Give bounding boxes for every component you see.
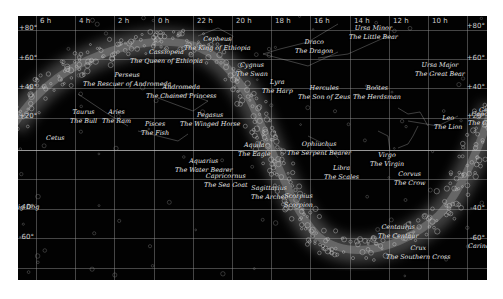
constellation-label[interactable]: HerculesThe Son of Zeus <box>298 84 350 101</box>
constellation-label[interactable]: AquilaThe Eagle <box>238 141 271 158</box>
constellation-name: Draco <box>295 38 333 47</box>
constellation-subtitle: The Virgin <box>370 160 404 169</box>
constellation-label[interactable]: OphiuchusThe Serpent Bearer <box>287 140 351 157</box>
constellation-name: Capricornus <box>204 172 248 181</box>
dec-label-right: -60° <box>470 234 485 242</box>
constellation-label[interactable]: CorvusThe Crow <box>394 170 425 187</box>
constellation-subtitle: The Swan <box>236 70 268 79</box>
constellation-name: Sagittarius <box>251 184 287 193</box>
constellation-subtitle: The Sea Goat <box>204 181 248 190</box>
constellation-subtitle: The Bull <box>70 117 97 126</box>
constellation-name: Ursa Minor <box>349 24 398 33</box>
constellation-name: Taurus <box>70 108 97 117</box>
dec-label-right: -40° <box>470 204 485 212</box>
constellation-label[interactable]: PiscesThe Fish <box>141 120 169 137</box>
constellation-subtitle: The Ram <box>102 117 131 126</box>
dec-label-left: +60° <box>19 54 37 62</box>
constellation-name: Centaurus <box>378 223 419 232</box>
dec-label-right: +80° <box>467 22 485 30</box>
constellation-subtitle: The Fish <box>141 129 169 138</box>
constellation-label[interactable]: BoötesThe Herdsman <box>353 84 401 101</box>
constellation-label[interactable]: CapricornusThe Sea Goat <box>204 172 248 189</box>
constellation-label[interactable]: VirgoThe Virgin <box>370 151 404 168</box>
constellation-subtitle: The Scales <box>324 173 359 182</box>
constellation-name: Andromeda <box>146 83 217 92</box>
hour-label: 6 h <box>40 17 51 25</box>
constellation-name: Boötes <box>353 84 401 93</box>
constellation-label[interactable]: ScorpiusScorpion <box>284 192 313 209</box>
constellation-label[interactable]: LibraThe Scales <box>324 164 359 181</box>
constellation-label[interactable]: AriesThe Ram <box>102 108 131 125</box>
constellation-subtitle: Scorpion <box>284 201 313 210</box>
constellation-subtitle: The Southern Cross <box>386 253 451 262</box>
hour-label: 2 h <box>118 17 129 25</box>
hour-label: 18 h <box>275 17 291 25</box>
constellation-subtitle: The Herdsman <box>353 93 401 102</box>
constellation-subtitle: The Lion <box>434 123 462 132</box>
constellation-name: Virgo <box>370 151 404 160</box>
hour-label: 20 h <box>236 17 252 25</box>
constellation-label[interactable]: LyraThe Harp <box>262 78 293 95</box>
constellation-label[interactable]: Ursa MinorThe Little Bear <box>349 24 398 41</box>
constellation-name: Ursa Major <box>415 61 465 70</box>
constellation-subtitle: ig Dog <box>18 203 39 212</box>
constellation-name: Cassiopeia <box>130 48 203 57</box>
constellation-label[interactable]: Cetus <box>46 134 65 143</box>
constellation-subtitle: The Eagle <box>238 150 271 159</box>
constellation-label[interactable]: PegasusThe Winged Horse <box>180 111 240 128</box>
constellation-label[interactable]: ig Dog <box>18 203 39 212</box>
constellation-name: Pisces <box>141 120 169 129</box>
constellation-label[interactable]: SagittariusThe Archer <box>251 184 287 201</box>
constellation-subtitle: The Crab <box>468 119 487 128</box>
constellation-label[interactable]: TaurusThe Bull <box>70 108 97 125</box>
constellation-name: Crux <box>386 244 451 253</box>
constellation-name: Ophiuchus <box>287 140 351 149</box>
constellation-label[interactable]: CygnusThe Swan <box>236 61 268 78</box>
constellation-subtitle: The Crow <box>394 179 425 188</box>
constellation-subtitle: The Son of Zeus <box>298 93 350 102</box>
hour-label: 22 h <box>197 17 213 25</box>
constellation-subtitle: The Dragon <box>295 47 333 56</box>
constellation-label[interactable]: LeoThe Lion <box>434 114 462 131</box>
hour-label: 10 h <box>432 17 448 25</box>
constellation-label[interactable]: AndromedaThe Chained Princess <box>146 83 217 100</box>
hour-label: 16 h <box>314 17 330 25</box>
constellation-label[interactable]: Gemini <box>479 106 487 115</box>
constellation-name: Lyra <box>262 78 293 87</box>
dec-label-left: +40° <box>19 83 37 91</box>
constellation-label[interactable]: CassiopeiaThe Queen of Ethiopia <box>130 48 203 65</box>
star-chart[interactable]: 6 h4 h2 h0 h22 h20 h18 h16 h14 h12 h10 h… <box>18 16 487 280</box>
dec-label-left: -60° <box>19 233 34 241</box>
constellation-name: Corvus <box>394 170 425 179</box>
constellation-name: Libra <box>324 164 359 173</box>
constellation-name: Aries <box>102 108 131 117</box>
constellation-label[interactable]: DracoThe Dragon <box>295 38 333 55</box>
constellation-subtitle: The Harp <box>262 87 293 96</box>
constellation-name: Cygnus <box>236 61 268 70</box>
constellation-name: Leo <box>434 114 462 123</box>
constellation-subtitle: The Centaur <box>378 232 419 241</box>
constellation-subtitle: The Little Bear <box>349 33 398 42</box>
constellation-label[interactable]: CentaurusThe Centaur <box>378 223 419 240</box>
constellation-subtitle: The Winged Horse <box>180 120 240 129</box>
dec-label-right: +40° <box>467 83 485 91</box>
constellation-subtitle: The Serpent Bearer <box>287 149 351 158</box>
constellation-subtitle: The Great Bear <box>415 70 465 79</box>
constellation-name: Pegasus <box>180 111 240 120</box>
constellation-subtitle: The Archer <box>251 193 287 202</box>
dec-label-right: +60° <box>467 54 485 62</box>
constellation-subtitle: The Queen of Ethiopia <box>130 57 203 66</box>
constellation-label[interactable]: Ursa MajorThe Great Bear <box>415 61 465 78</box>
constellation-name: Hercules <box>298 84 350 93</box>
constellation-name: Gemini <box>479 106 487 115</box>
constellation-label[interactable]: Carina <box>468 242 487 251</box>
dec-label-left: +20° <box>19 112 37 120</box>
constellation-subtitle: The Chained Princess <box>146 92 217 101</box>
constellation-name: Aquila <box>238 141 271 150</box>
constellation-name: Perseus <box>83 71 171 80</box>
constellation-name: Cepheus <box>184 35 251 44</box>
constellation-name: Carina <box>468 242 487 251</box>
constellation-label[interactable]: CruxThe Southern Cross <box>386 244 451 261</box>
dec-label-left: +80° <box>19 24 37 32</box>
constellation-name: Scorpius <box>284 192 313 201</box>
